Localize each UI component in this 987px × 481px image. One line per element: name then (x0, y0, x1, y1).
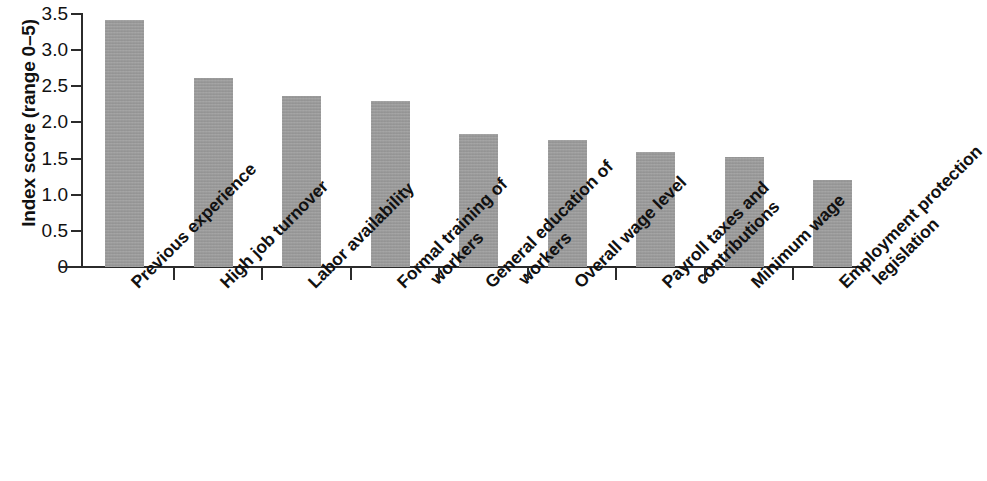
y-axis-tick-mark (71, 158, 82, 160)
bar (105, 20, 144, 267)
y-axis-tick-mark (71, 85, 82, 87)
x-axis-tick-mark (350, 268, 352, 280)
y-axis-tick-mark (71, 121, 82, 123)
x-axis-tick-mark (438, 268, 440, 280)
y-axis-tick-mark (71, 13, 82, 15)
x-axis-tick-mark (615, 268, 617, 280)
x-axis-tick-mark (527, 268, 529, 280)
x-axis-tick-mark (704, 268, 706, 280)
x-axis-tick-mark (173, 268, 175, 280)
y-axis-tick-mark (71, 49, 82, 51)
y-axis-tick-mark (71, 230, 82, 232)
x-axis-category-label-line: legislation (850, 156, 987, 307)
bar (194, 78, 233, 267)
x-axis-tick-mark (261, 268, 263, 280)
x-axis-category-labels: Previous experienceHigh job turnoverLabo… (0, 272, 866, 481)
y-axis-tick-mark (71, 194, 82, 196)
y-axis-tick-mark (71, 266, 82, 268)
x-axis-tick-mark (792, 268, 794, 280)
